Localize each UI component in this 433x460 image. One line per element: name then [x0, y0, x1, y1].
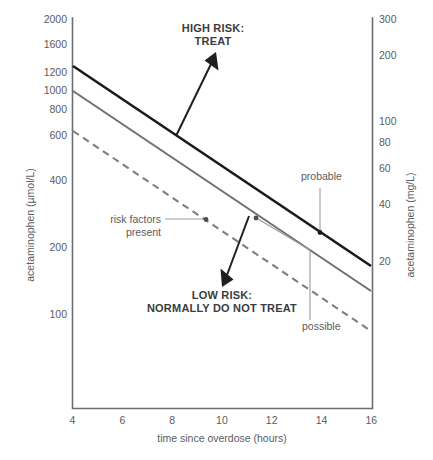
probable-leader-dot: [318, 230, 323, 235]
annotation-high-risk-line2: TREAT: [195, 35, 232, 47]
annotation-low-risk-line1: LOW RISK:: [192, 289, 252, 301]
ytick-label-800: 800: [49, 103, 67, 115]
annotation-high-risk-line1: HIGH RISK:: [182, 22, 245, 34]
risk-factors-leader-dot: [204, 217, 209, 222]
y2tick-label-60: 60: [379, 162, 391, 174]
low-risk-pointer-arrow: [221, 216, 250, 287]
ytick-label-2000: 2000: [44, 13, 68, 25]
xtick-label-14: 14: [316, 414, 328, 426]
y2-axis-title: acetaminophen (mg/L): [404, 172, 416, 277]
possible-leader-line-diagonal: [258, 219, 310, 250]
xtick-label-4: 4: [70, 414, 76, 426]
y2tick-label-100: 100: [379, 115, 397, 127]
ytick-label-100: 100: [49, 308, 67, 320]
x-axis-title: time since overdose (hours): [157, 432, 287, 444]
nomogram-svg: 2000 1600 1200 1000 800 600 400 200 100 …: [0, 0, 433, 460]
annotation-risk-factors-line2: present: [126, 226, 161, 238]
y-axis-title: acetaminophen (µmol/L): [24, 168, 36, 281]
xtick-label-12: 12: [266, 414, 278, 426]
annotation-probable: probable: [301, 170, 342, 182]
y2tick-label-200: 200: [379, 49, 397, 61]
ytick-label-1600: 1600: [44, 38, 68, 50]
nomogram-chart: 2000 1600 1200 1000 800 600 400 200 100 …: [0, 0, 433, 460]
xtick-label-8: 8: [169, 414, 175, 426]
xtick-label-6: 6: [119, 414, 125, 426]
ytick-label-1000: 1000: [44, 84, 68, 96]
y2tick-label-20: 20: [379, 255, 391, 267]
xtick-label-10: 10: [216, 414, 228, 426]
ytick-label-200: 200: [49, 241, 67, 253]
y2tick-label-80: 80: [379, 136, 391, 148]
xtick-label-16: 16: [365, 414, 377, 426]
curve-risk-factors-present: [73, 131, 371, 331]
ytick-label-600: 600: [49, 129, 67, 141]
annotation-possible: possible: [302, 320, 341, 332]
y2tick-label-300: 300: [379, 13, 397, 25]
ytick-label-1200: 1200: [44, 66, 68, 78]
possible-leader-dot: [254, 216, 259, 221]
y2tick-label-40: 40: [379, 198, 391, 210]
curve-possible: [73, 91, 371, 291]
curve-probable: [73, 66, 371, 266]
ytick-label-400: 400: [49, 174, 67, 186]
annotation-risk-factors-line1: risk factors: [110, 213, 161, 225]
annotation-low-risk-line2: NORMALLY DO NOT TREAT: [147, 302, 297, 314]
high-risk-pointer-arrow: [176, 52, 219, 136]
